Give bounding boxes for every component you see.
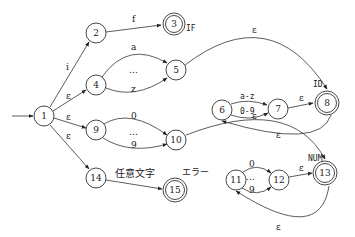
label-12-13: ε (299, 163, 304, 173)
label-10-13: ε (252, 111, 257, 121)
label-11-12-0: 0 (249, 159, 255, 169)
state-8-accepting: 8 (315, 91, 339, 115)
edge-4-5-z (106, 78, 167, 92)
label-6-7-az: a-z (240, 92, 255, 101)
state-3-label: 3 (171, 19, 177, 29)
state-6: 6 (212, 100, 232, 120)
edge-7-8 (288, 103, 313, 108)
label-9-10-dots: … (129, 127, 138, 137)
state-5-label: 5 (173, 65, 179, 75)
edge-6-7-az (231, 101, 267, 105)
state-12-label: 12 (273, 175, 284, 185)
edge-12-13 (289, 173, 312, 177)
state-2-label: 2 (93, 28, 99, 38)
token-id: ID (313, 80, 323, 89)
label-7-8: ε (299, 93, 304, 103)
label-4-5-a: a (131, 42, 137, 52)
state-3-accepting: 3 (163, 13, 185, 35)
token-if: IF (186, 24, 196, 33)
label-14-15: 任意文字 (115, 167, 155, 179)
edge-2-3 (106, 25, 161, 32)
state-15-label: 15 (169, 185, 181, 195)
state-4: 4 (86, 75, 106, 95)
state-10: 10 (166, 130, 186, 150)
state-4-label: 4 (93, 80, 99, 90)
state-11-label: 11 (230, 175, 241, 185)
state-11: 11 (226, 170, 246, 190)
label-1-9: ε (66, 112, 71, 122)
label-11-12-9: 9 (249, 185, 255, 195)
state-6-label: 6 (219, 105, 225, 115)
state-7: 7 (268, 99, 288, 119)
label-8-6: ε (276, 130, 281, 140)
state-14-label: 14 (90, 173, 102, 183)
state-1: 1 (34, 106, 54, 126)
label-4-5-z: z (131, 84, 136, 94)
label-1-4: ε (66, 91, 71, 101)
label-11-12-dots: … (246, 172, 255, 182)
label-9-10-0: 0 (131, 111, 137, 121)
label-13-11: ε (276, 222, 281, 232)
state-15-accepting: 15 (163, 178, 187, 202)
edge-5-8 (185, 38, 327, 89)
nfa-diagram: i f ε a … z ε a-z 0-9 ε ε ε 0 … 9 ε 0 … … (0, 0, 355, 237)
state-12: 12 (269, 170, 289, 190)
edge-11-12-9 (242, 187, 271, 193)
state-13-label: 13 (319, 168, 331, 178)
state-13-accepting: 13 (313, 161, 337, 185)
label-1-2: i (66, 62, 69, 72)
edge-10-13 (186, 120, 325, 159)
state-9: 9 (86, 120, 106, 140)
state-8-label: 8 (324, 98, 330, 108)
label-9-10-9: 9 (131, 140, 137, 150)
state-7-label: 7 (275, 104, 281, 114)
token-error: エラー (182, 167, 209, 177)
state-9-label: 9 (93, 125, 99, 135)
state-1-label: 1 (41, 111, 47, 121)
label-1-14: ε (66, 131, 71, 141)
state-10-label: 10 (170, 135, 182, 145)
state-5: 5 (166, 60, 186, 80)
label-5-8: ε (252, 25, 257, 35)
label-4-5-dots: … (129, 65, 138, 75)
label-2-3: f (132, 14, 136, 24)
edge-14-15 (106, 180, 162, 189)
state-2: 2 (86, 23, 106, 43)
state-14: 14 (86, 168, 106, 188)
